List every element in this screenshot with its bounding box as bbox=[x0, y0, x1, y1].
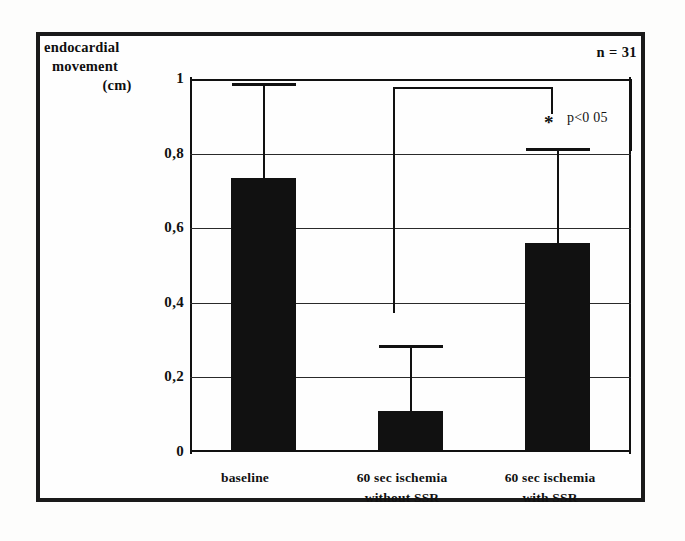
x-label-line: without SSR bbox=[322, 488, 482, 508]
significance-asterisk: * bbox=[544, 113, 554, 132]
significance-bracket-right-arm bbox=[551, 87, 553, 114]
y-axis-tick-label: 0,6 bbox=[130, 219, 184, 236]
y-axis-tick-label: 0,8 bbox=[130, 145, 184, 162]
plot-top-border bbox=[190, 79, 631, 81]
error-bar-stem-0 bbox=[263, 83, 265, 180]
error-bar-cap-0 bbox=[232, 83, 296, 86]
sample-size-label: n = 31 bbox=[597, 44, 637, 61]
bar-1 bbox=[378, 411, 443, 450]
y-axis-tick-label: 0,2 bbox=[130, 368, 184, 385]
y-axis-title-line-1: endocardial bbox=[42, 38, 192, 57]
error-bar-stem-1 bbox=[410, 345, 412, 413]
plot-area bbox=[190, 79, 631, 452]
x-label-line: 60 sec ischemia bbox=[470, 468, 630, 488]
x-label-line: 60 sec ischemia bbox=[322, 468, 482, 488]
bar-0 bbox=[231, 178, 296, 450]
x-axis-label-ischemia-with-ssr: 60 sec ischemia with SSR bbox=[470, 468, 630, 507]
error-bar-stem-2 bbox=[557, 148, 559, 245]
x-axis-label-baseline: baseline bbox=[170, 468, 320, 488]
x-label-line: baseline bbox=[170, 468, 320, 488]
y-axis-tick-label: 0,4 bbox=[130, 294, 184, 311]
bar-2 bbox=[525, 243, 590, 450]
y-axis-tick-labels: 10,80,60,40,20 bbox=[126, 79, 184, 452]
error-bar-cap-2 bbox=[526, 148, 590, 151]
figure-canvas: endocardial movement (cm) n = 31 p<0 05 … bbox=[0, 0, 685, 541]
significance-bracket-left-arm bbox=[393, 87, 395, 313]
gridline bbox=[190, 154, 631, 155]
x-label-line: with SSR bbox=[470, 488, 630, 508]
x-axis-label-ischemia-without-ssr: 60 sec ischemia without SSR bbox=[322, 468, 482, 507]
significance-bracket-outer-arm bbox=[630, 79, 632, 151]
y-axis-tick-label: 1 bbox=[130, 70, 184, 87]
error-bar-cap-1 bbox=[379, 345, 443, 348]
y-axis-line bbox=[190, 77, 192, 454]
y-axis-tick-label: 0 bbox=[130, 443, 184, 460]
x-axis-line bbox=[190, 450, 631, 452]
significance-bracket-top bbox=[393, 87, 553, 89]
